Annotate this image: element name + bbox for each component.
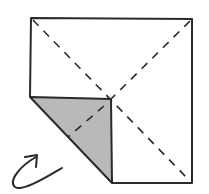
origami-diagram <box>0 0 209 194</box>
diagram-canvas <box>0 0 209 194</box>
turn-over-arrow-icon <box>13 157 62 188</box>
